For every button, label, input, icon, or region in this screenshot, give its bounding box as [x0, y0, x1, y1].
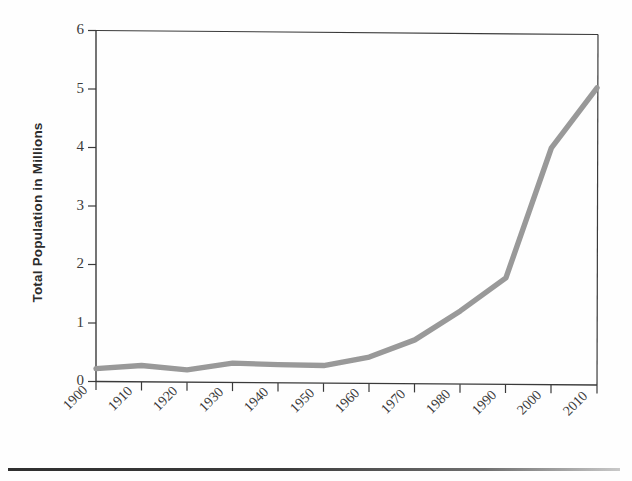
y-tick-label-5: 5 [62, 80, 84, 97]
plot-frame [96, 31, 598, 386]
data-series-line [96, 88, 597, 370]
y-tick-label-6: 6 [62, 21, 84, 38]
y-axis-title: Total Population in Millions [30, 93, 45, 333]
line-chart [0, 0, 632, 481]
y-tick-label-2: 2 [62, 255, 84, 272]
figure-container: Total Population in Millions 0 1 2 3 4 5… [0, 0, 632, 481]
y-tick-label-1: 1 [62, 314, 84, 331]
y-tick-label-3: 3 [62, 197, 84, 214]
y-axis-ticks [88, 31, 96, 382]
bottom-divider-rule [8, 468, 620, 471]
y-tick-label-4: 4 [62, 138, 84, 155]
